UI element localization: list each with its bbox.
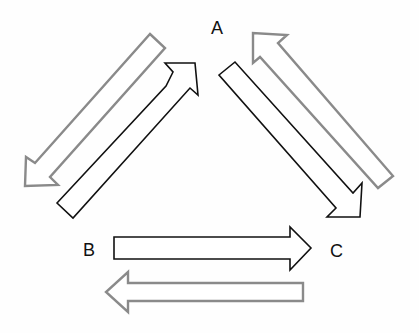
node-label-c: C bbox=[330, 241, 343, 261]
node-label-a: A bbox=[211, 18, 223, 38]
arrow-b-to-c bbox=[114, 227, 311, 270]
cycle-diagram: A B C bbox=[0, 0, 419, 333]
arrow-c-to-b bbox=[106, 272, 303, 312]
node-label-b: B bbox=[83, 240, 95, 260]
diagram-canvas: A B C bbox=[0, 0, 419, 333]
